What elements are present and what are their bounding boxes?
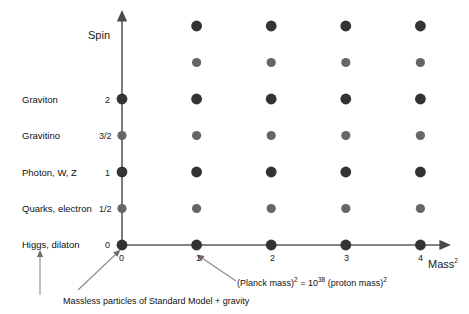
data-point <box>415 94 426 105</box>
chart-canvas <box>0 0 469 314</box>
data-point <box>415 21 426 32</box>
x-axis-title-base: Mass <box>428 258 454 270</box>
data-point <box>266 21 277 32</box>
data-point <box>340 94 351 105</box>
row-label-photon-w-z: Photon, W, Z <box>22 168 77 178</box>
x-tick-label-1: 1 <box>196 254 201 263</box>
data-point <box>191 240 202 251</box>
planck-exponent-2: 2 <box>383 276 387 283</box>
data-point <box>266 240 277 251</box>
annotation-planck-mass: (Planck mass)2 = 1038 (proton mass)2 <box>237 279 387 288</box>
planck-part-3: (proton mass) <box>325 278 383 288</box>
data-point <box>340 21 351 32</box>
planck-part-1: (Planck mass) <box>237 278 294 288</box>
data-point <box>415 167 426 178</box>
data-point <box>266 167 277 178</box>
x-tick-label-4: 4 <box>418 254 423 263</box>
data-point <box>191 94 202 105</box>
planck-part-2: = 10 <box>298 278 318 288</box>
data-point <box>416 131 425 140</box>
data-point-group <box>117 21 426 251</box>
data-point <box>416 204 425 213</box>
data-point <box>267 58 276 67</box>
data-point <box>117 167 128 178</box>
data-point <box>117 94 128 105</box>
data-point <box>341 58 350 67</box>
data-point <box>191 167 202 178</box>
data-point <box>340 167 351 178</box>
x-axis-title-exponent: 2 <box>454 257 458 264</box>
x-tick-label-2: 2 <box>270 254 275 263</box>
data-point <box>192 58 201 67</box>
data-point <box>117 131 126 140</box>
data-point <box>341 204 350 213</box>
data-point <box>341 131 350 140</box>
data-point <box>267 204 276 213</box>
data-point <box>415 240 426 251</box>
data-point <box>117 240 128 251</box>
x-tick-label-0: 0 <box>119 254 124 263</box>
pointer-to-planck-mass <box>202 258 236 281</box>
y-tick-label-three-halves: 3/2 <box>99 132 112 141</box>
y-tick-label-2: 2 <box>105 96 110 105</box>
data-point <box>416 58 425 67</box>
x-axis-title: Mass2 <box>428 259 458 270</box>
data-point <box>266 94 277 105</box>
spin-vs-mass-squared-chart: Spin Mass2 0 1/2 1 3/2 2 0 1 2 3 4 Gravi… <box>0 0 469 314</box>
annotation-massless-particles: Massless particles of Standard Model + g… <box>63 297 249 306</box>
pointer-to-origin-dot <box>78 254 116 290</box>
y-tick-label-1: 1 <box>105 169 110 178</box>
y-axis-title: Spin <box>88 30 110 41</box>
y-tick-label-0: 0 <box>105 241 110 250</box>
row-label-graviton: Graviton <box>22 95 58 105</box>
data-point <box>192 204 201 213</box>
data-point <box>191 21 202 32</box>
y-tick-label-one-half: 1/2 <box>99 205 112 214</box>
row-label-quarks-electron: Quarks, electron <box>22 204 92 214</box>
row-label-gravitino: Gravitino <box>22 131 60 141</box>
data-point <box>340 240 351 251</box>
x-tick-label-3: 3 <box>344 254 349 263</box>
data-point <box>267 131 276 140</box>
row-label-higgs-dilaton: Higgs, dilaton <box>22 240 80 250</box>
data-point <box>192 131 201 140</box>
data-point <box>117 204 126 213</box>
